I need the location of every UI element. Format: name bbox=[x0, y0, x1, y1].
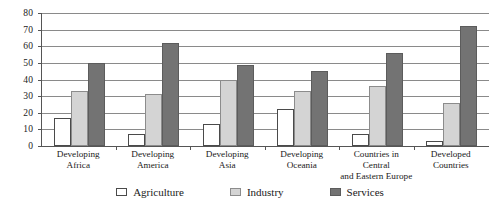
bar-industry[interactable] bbox=[369, 86, 386, 146]
y-axis-tick-label: 0 bbox=[28, 141, 33, 151]
x-axis-category-label: Countries in Centraland Eastern Europe bbox=[339, 149, 414, 179]
bar-services[interactable] bbox=[162, 43, 179, 146]
bar-agriculture[interactable] bbox=[277, 109, 294, 146]
y-axis-tick-label: 40 bbox=[23, 75, 33, 85]
bar-group bbox=[415, 13, 490, 146]
y-axis-tick-label: 10 bbox=[23, 124, 33, 134]
bar-agriculture[interactable] bbox=[54, 118, 71, 146]
bar-group bbox=[340, 13, 415, 146]
legend-item-agriculture[interactable]: Agriculture bbox=[116, 186, 184, 198]
bar-services[interactable] bbox=[237, 65, 254, 146]
bar-services[interactable] bbox=[311, 71, 328, 146]
bar-agriculture[interactable] bbox=[352, 134, 369, 146]
bar-group bbox=[191, 13, 266, 146]
legend-item-industry[interactable]: Industry bbox=[230, 186, 284, 198]
grouped-bar-chart: 01020304050607080 DevelopingAfricaDevelo… bbox=[0, 0, 500, 218]
y-axis-tick-labels: 01020304050607080 bbox=[0, 0, 36, 160]
x-axis-category-label: DevelopingOceania bbox=[265, 149, 340, 179]
bar-agriculture[interactable] bbox=[426, 141, 443, 146]
bar-industry[interactable] bbox=[145, 94, 162, 146]
y-axis-tick-label: 20 bbox=[23, 108, 33, 118]
x-axis-category-label: DevelopingAmerica bbox=[116, 149, 191, 179]
y-axis-tick-label: 70 bbox=[23, 25, 33, 35]
x-axis-category-label: DevelopingAfrica bbox=[41, 149, 116, 179]
bar-industry[interactable] bbox=[71, 91, 88, 146]
bar-services[interactable] bbox=[386, 53, 403, 146]
y-axis-tick-label: 80 bbox=[23, 8, 33, 18]
plot-area bbox=[41, 13, 489, 147]
legend-label: Agriculture bbox=[133, 186, 184, 198]
bar-group bbox=[266, 13, 341, 146]
bar-agriculture[interactable] bbox=[128, 134, 145, 146]
x-axis-category-labels: DevelopingAfricaDevelopingAmericaDevelop… bbox=[41, 149, 488, 179]
y-axis-tick-mark bbox=[38, 146, 42, 147]
bar-services[interactable] bbox=[88, 63, 105, 146]
bar-agriculture[interactable] bbox=[203, 124, 220, 146]
legend-label: Services bbox=[347, 186, 384, 198]
legend-item-services[interactable]: Services bbox=[330, 186, 384, 198]
y-axis-tick-label: 30 bbox=[23, 91, 33, 101]
legend-swatch-icon bbox=[230, 188, 241, 196]
bar-group bbox=[42, 13, 117, 146]
bar-industry[interactable] bbox=[443, 103, 460, 146]
bar-industry[interactable] bbox=[220, 80, 237, 147]
bar-services[interactable] bbox=[460, 26, 477, 146]
legend-swatch-icon bbox=[330, 188, 341, 196]
bar-industry[interactable] bbox=[294, 91, 311, 146]
plot-wrapper: 01020304050607080 DevelopingAfricaDevelo… bbox=[0, 0, 500, 160]
legend-label: Industry bbox=[247, 186, 284, 198]
bar-group bbox=[117, 13, 192, 146]
y-axis-tick-label: 60 bbox=[23, 41, 33, 51]
x-axis-category-label: DevelopingAsia bbox=[190, 149, 265, 179]
y-axis-tick-label: 50 bbox=[23, 58, 33, 68]
x-axis-category-label: DevelopedCountries bbox=[414, 149, 489, 179]
bar-groups bbox=[42, 13, 489, 146]
chart-legend: AgricultureIndustryServices bbox=[0, 186, 500, 198]
legend-swatch-icon bbox=[116, 188, 127, 196]
